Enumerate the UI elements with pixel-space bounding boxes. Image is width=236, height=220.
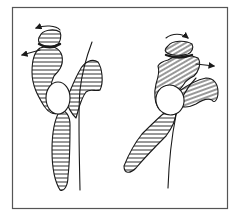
diagram-svg	[0, 0, 236, 220]
left-lower-shaft	[52, 110, 70, 190]
diagram-canvas	[0, 0, 236, 220]
left-oval	[46, 82, 70, 114]
